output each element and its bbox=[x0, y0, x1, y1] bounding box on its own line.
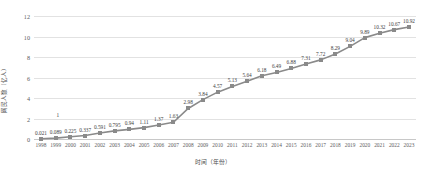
data-label: 10.92 bbox=[403, 18, 415, 24]
data-label: 1.37 bbox=[154, 116, 163, 122]
x-axis-tick-label: 2001 bbox=[80, 142, 91, 148]
data-marker bbox=[201, 98, 205, 102]
chart-annotation: 1 bbox=[56, 112, 59, 118]
data-marker bbox=[275, 70, 279, 74]
y-axis-title: 网民人数（亿人） bbox=[0, 65, 8, 113]
data-label: 7.72 bbox=[316, 51, 325, 57]
data-label: 7.31 bbox=[301, 55, 310, 61]
series-line bbox=[34, 16, 416, 139]
data-label: 10.67 bbox=[388, 21, 400, 27]
data-label: 0.337 bbox=[79, 127, 91, 133]
x-axis-tick-label: 2009 bbox=[198, 142, 209, 148]
data-label: 1.11 bbox=[139, 119, 148, 125]
data-label: 6.88 bbox=[287, 59, 296, 65]
y-axis-tick-label: 0 bbox=[27, 136, 30, 143]
x-axis-tick-label: 2013 bbox=[256, 142, 267, 148]
line-chart: 网民人数（亿人） 024681012 0.0210.0890.2250.3370… bbox=[0, 0, 426, 178]
data-label: 10.32 bbox=[374, 24, 386, 30]
data-marker bbox=[142, 126, 146, 130]
x-axis-tick-label: 2015 bbox=[286, 142, 297, 148]
data-marker bbox=[333, 52, 337, 56]
y-axis-tick-label: 2 bbox=[27, 115, 30, 122]
data-label: 9.89 bbox=[360, 29, 369, 35]
data-marker bbox=[378, 31, 382, 35]
data-label: 2.98 bbox=[184, 99, 193, 105]
data-label: 1.63 bbox=[169, 113, 178, 119]
x-axis-tick-label: 2002 bbox=[94, 142, 105, 148]
y-axis-tick-label: 10 bbox=[24, 33, 30, 40]
data-label: 5.64 bbox=[242, 72, 251, 78]
x-axis-tick-label: 2007 bbox=[168, 142, 179, 148]
data-label: 9.04 bbox=[345, 37, 354, 43]
data-marker bbox=[260, 74, 264, 78]
y-axis-tick-label: 4 bbox=[27, 95, 30, 102]
data-label: 3.84 bbox=[198, 91, 207, 97]
x-axis-tick-label: 2020 bbox=[359, 142, 370, 148]
x-axis-tick-label: 2000 bbox=[65, 142, 76, 148]
x-axis-tick-label: 2011 bbox=[227, 142, 238, 148]
data-marker bbox=[171, 120, 175, 124]
data-marker bbox=[319, 58, 323, 62]
data-marker bbox=[245, 79, 249, 83]
data-marker bbox=[113, 129, 117, 133]
x-axis-line bbox=[34, 139, 416, 140]
x-axis-tick-label: 2021 bbox=[374, 142, 385, 148]
data-marker bbox=[392, 28, 396, 32]
data-marker bbox=[363, 36, 367, 40]
data-marker bbox=[157, 123, 161, 127]
data-marker bbox=[39, 137, 43, 141]
x-axis-tick-label: 2018 bbox=[330, 142, 341, 148]
data-marker bbox=[407, 25, 411, 29]
x-axis-tick-label: 2022 bbox=[389, 142, 400, 148]
data-label: 0.089 bbox=[50, 129, 62, 135]
x-axis-title: 时间（年份） bbox=[0, 157, 426, 166]
data-marker bbox=[98, 131, 102, 135]
x-axis-tick-label: 2014 bbox=[271, 142, 282, 148]
y-axis-tick-label: 12 bbox=[24, 13, 30, 20]
data-marker bbox=[54, 136, 58, 140]
data-marker bbox=[230, 84, 234, 88]
data-marker bbox=[68, 135, 72, 139]
data-label: 0.795 bbox=[109, 122, 121, 128]
data-marker bbox=[186, 106, 190, 110]
x-axis-tick-label: 2023 bbox=[404, 142, 415, 148]
data-marker bbox=[127, 127, 131, 131]
data-marker bbox=[348, 44, 352, 48]
data-marker bbox=[289, 66, 293, 70]
data-marker bbox=[83, 134, 87, 138]
x-axis-tick-label: 2008 bbox=[183, 142, 194, 148]
x-axis-tick-label: 1998 bbox=[36, 142, 47, 148]
x-axis-tick-label: 2006 bbox=[153, 142, 164, 148]
x-axis-tick-label: 2004 bbox=[124, 142, 135, 148]
data-label: 5.13 bbox=[228, 77, 237, 83]
data-label: 4.57 bbox=[213, 83, 222, 89]
x-axis-tick-label: 2019 bbox=[345, 142, 356, 148]
data-label: 6.18 bbox=[257, 67, 266, 73]
x-axis-tick-label: 1999 bbox=[50, 142, 61, 148]
y-axis-tick-label: 6 bbox=[27, 74, 30, 81]
x-axis-tick-label: 2005 bbox=[139, 142, 150, 148]
data-label: 0.225 bbox=[64, 128, 76, 134]
x-axis-tick-label: 2012 bbox=[242, 142, 253, 148]
plot-area: 024681012 0.0210.0890.2250.3370.5910.795… bbox=[34, 16, 416, 139]
data-marker bbox=[216, 90, 220, 94]
data-label: 6.49 bbox=[272, 63, 281, 69]
data-marker bbox=[304, 62, 308, 66]
x-axis-tick-label: 2010 bbox=[212, 142, 223, 148]
x-axis-tick-label: 2017 bbox=[315, 142, 326, 148]
data-label: 0.94 bbox=[125, 120, 134, 126]
data-label: 8.29 bbox=[331, 45, 340, 51]
x-axis-tick-label: 2003 bbox=[109, 142, 120, 148]
data-label: 0.021 bbox=[35, 130, 47, 136]
x-axis-tick-label: 2016 bbox=[301, 142, 312, 148]
data-label: 0.591 bbox=[94, 124, 106, 130]
y-axis-tick-label: 8 bbox=[27, 54, 30, 61]
